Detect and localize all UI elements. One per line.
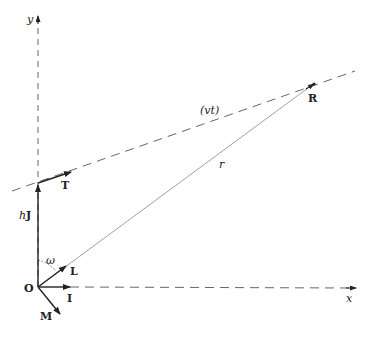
point-r: [312, 82, 315, 85]
x-axis-label: x: [346, 292, 353, 305]
diagram-canvas: y x (vt) r R hJ T ω L I M O: [0, 0, 372, 337]
r-line: [38, 85, 312, 287]
i-label: I: [67, 292, 72, 305]
vt-line: [12, 71, 355, 191]
m-label: M: [40, 310, 52, 323]
point-r-label: R: [308, 92, 318, 105]
omega-label: ω: [46, 254, 55, 267]
l-vector: [38, 266, 66, 287]
vt-label: (vt): [200, 104, 219, 117]
x-axis: [70, 287, 356, 288]
origin-label: O: [24, 282, 34, 295]
hj-label: hJ: [19, 209, 31, 222]
r-label: r: [219, 158, 225, 171]
y-axis-label: y: [26, 13, 34, 26]
t-label: T: [61, 179, 70, 192]
l-label: L: [70, 265, 78, 278]
